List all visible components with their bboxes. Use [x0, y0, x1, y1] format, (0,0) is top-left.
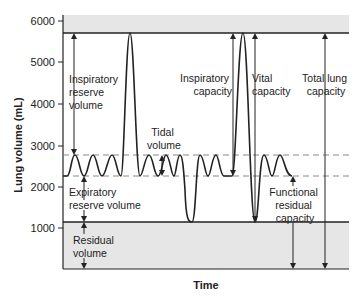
tick-2000: 2000	[31, 181, 55, 193]
tick-5000: 5000	[31, 56, 55, 68]
ic-label: Inspiratory capacity	[180, 72, 233, 97]
tlc-label: Total lung capacity	[302, 72, 350, 97]
y-ticks	[58, 21, 63, 228]
tick-1000: 1000	[31, 222, 55, 234]
tick-4000: 4000	[31, 98, 55, 110]
above-tlc-shade	[63, 15, 349, 33]
erv-label: Expiratory reserve volume	[69, 186, 141, 211]
x-axis-label: Time	[193, 279, 218, 291]
y-tick-labels: 6000 5000 4000 3000 2000 1000	[31, 15, 55, 234]
frc-label: Functional residual capacity	[269, 186, 320, 224]
lung-volume-diagram: 6000 5000 4000 3000 2000 1000 Lung volum…	[0, 0, 364, 298]
irv-label: Inspiratory reserve volume	[69, 73, 121, 111]
tidal-volume-label: Tidal volume	[147, 126, 181, 151]
tick-6000: 6000	[31, 15, 55, 27]
tick-3000: 3000	[31, 140, 55, 152]
vc-label: Vital capacity	[252, 72, 291, 97]
y-axis-label: Lung volume (mL)	[12, 97, 24, 193]
